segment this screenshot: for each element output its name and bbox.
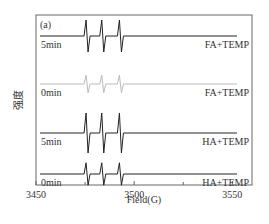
time-label: 5min xyxy=(41,39,62,50)
sample-label: HA+TEMP xyxy=(202,136,249,147)
sample-label: FA+TEMP xyxy=(205,87,250,98)
x-tick-label: 3550 xyxy=(222,189,242,200)
y-axis-label: 强度 xyxy=(12,90,24,110)
trace-labels: 5minFA+TEMP0minFA+TEMP5minHA+TEMP0minHA+… xyxy=(41,39,249,188)
chart-svg: 345035003550 5minFA+TEMP0minFA+TEMP5minH… xyxy=(0,0,269,224)
epr-spectra-chart: 345035003550 5minFA+TEMP0minFA+TEMP5minH… xyxy=(0,0,269,224)
sample-label: FA+TEMP xyxy=(205,39,250,50)
spectrum-trace xyxy=(40,113,237,153)
time-label: 5min xyxy=(41,136,62,147)
panel-label: (a) xyxy=(40,19,51,31)
sample-label: HA+TEMP xyxy=(202,177,249,188)
x-axis-label: Field(G) xyxy=(127,194,161,206)
time-label: 0min xyxy=(41,87,62,98)
x-tick-label: 3450 xyxy=(26,189,46,200)
time-label: 0min xyxy=(41,177,62,188)
